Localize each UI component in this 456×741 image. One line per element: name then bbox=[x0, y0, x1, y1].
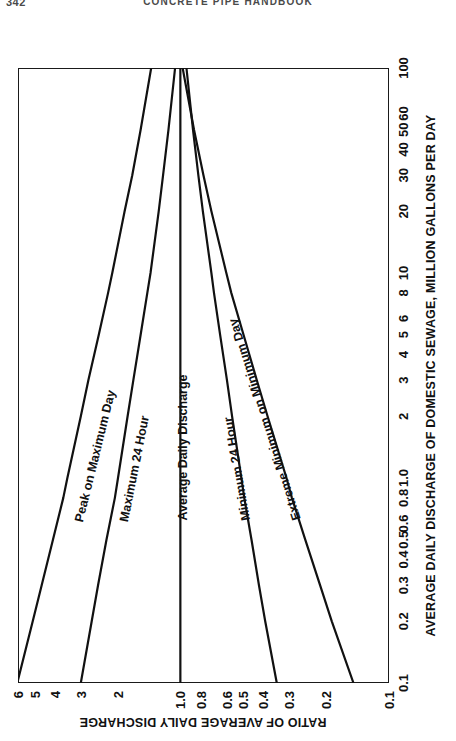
x-tick-0.1: 0.1 bbox=[396, 674, 411, 692]
x-tick-0.2: 0.2 bbox=[396, 612, 411, 630]
x-tick-0.6: 0.6 bbox=[396, 514, 411, 532]
x-tick-6: 6 bbox=[396, 315, 411, 322]
chart-curves bbox=[18, 68, 389, 683]
x-tick-30: 30 bbox=[396, 168, 411, 182]
x-tick-5: 5 bbox=[396, 331, 411, 338]
y-axis-title: RATIO OF AVERAGE DAILY DISCHARGE bbox=[18, 715, 389, 729]
x-tick-4: 4 bbox=[396, 351, 411, 358]
x-tick-8: 8 bbox=[396, 289, 411, 296]
figure-sewage-flow-ratio-chart: 0.10.20.30.40.50.60.81.02345681020304050… bbox=[0, 0, 456, 741]
curve-label-average-daily-discharge: Average Daily Discharge bbox=[176, 374, 190, 520]
x-tick-60: 60 bbox=[396, 106, 411, 120]
x-tick-100: 100 bbox=[396, 57, 411, 79]
x-tick-0.4: 0.4 bbox=[396, 551, 411, 569]
x-tick-20: 20 bbox=[396, 204, 411, 218]
x-axis-title: AVERAGE DAILY DISCHARGE OF DOMESTIC SEWA… bbox=[424, 68, 438, 683]
x-tick-1.0: 1.0 bbox=[396, 469, 411, 487]
curve-maximum-24-hour bbox=[81, 68, 175, 683]
x-tick-0.3: 0.3 bbox=[396, 576, 411, 594]
x-tick-40: 40 bbox=[396, 142, 411, 156]
x-tick-0.5: 0.5 bbox=[396, 531, 411, 549]
curve-peak-on-maximum-day bbox=[18, 68, 151, 683]
x-tick-50: 50 bbox=[396, 122, 411, 136]
x-tick-3: 3 bbox=[396, 377, 411, 384]
x-tick-10: 10 bbox=[396, 266, 411, 280]
x-tick-2: 2 bbox=[396, 413, 411, 420]
curve-extreme-minimum-on-minimum-day bbox=[183, 68, 354, 683]
x-tick-0.8: 0.8 bbox=[396, 489, 411, 507]
